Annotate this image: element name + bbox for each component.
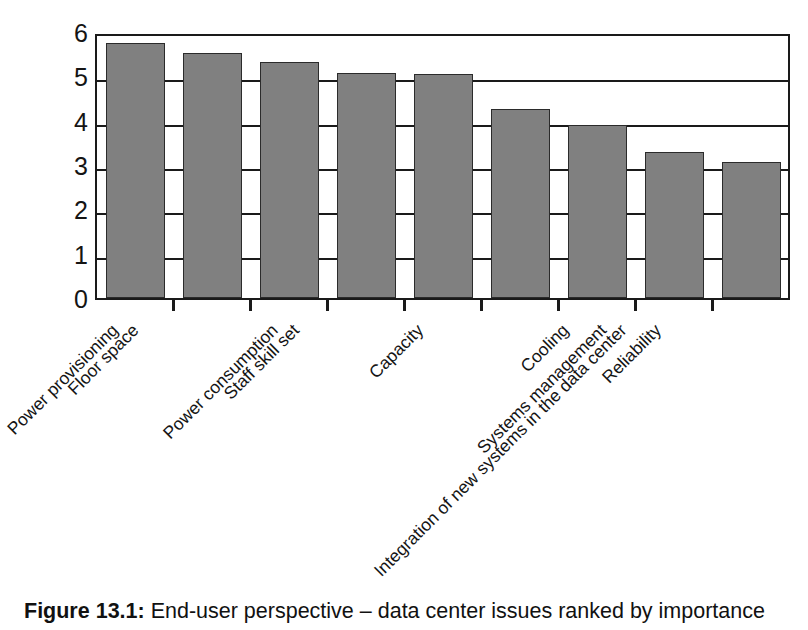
x-label-power-consumption: Power consumption [159, 320, 282, 443]
y-tick-label-3: 3 [60, 154, 88, 179]
y-tick-label-5: 5 [60, 65, 88, 90]
figure-container: 6 5 4 3 2 1 0 [0, 0, 808, 630]
bar-floor-space [183, 53, 242, 298]
bar-systems-management [568, 125, 627, 298]
bar-capacity [491, 109, 550, 298]
x-label-integration-new-systems: Integration of new systems in the data c… [370, 320, 630, 580]
y-axis: 6 5 4 3 2 1 0 [52, 0, 88, 315]
y-tick-label-1: 1 [60, 243, 88, 268]
x-axis-category-labels: Power provisioning Floor space Power con… [0, 300, 808, 590]
x-label-power-provisioning: Power provisioning [3, 320, 122, 439]
bar-integration-new-systems [414, 74, 473, 298]
bar-chart: 6 5 4 3 2 1 0 [0, 0, 808, 315]
y-tick-label-2: 2 [60, 198, 88, 223]
bar-staff-skill-set [337, 73, 396, 298]
y-tick-label-6: 6 [60, 21, 88, 46]
plot-area [95, 34, 790, 300]
figure-caption-text: End-user perspective – data center issue… [145, 599, 765, 623]
bar-power-provisioning [106, 43, 165, 298]
x-label-capacity: Capacity [365, 320, 427, 382]
bar-reliability [722, 162, 781, 298]
y-tick-label-4: 4 [60, 110, 88, 135]
figure-caption-label: Figure 13.1: [24, 599, 145, 623]
bars-layer [97, 36, 788, 298]
bar-cooling [645, 152, 704, 298]
figure-caption: Figure 13.1: End-user perspective – data… [24, 598, 808, 624]
bar-power-consumption [260, 62, 319, 298]
